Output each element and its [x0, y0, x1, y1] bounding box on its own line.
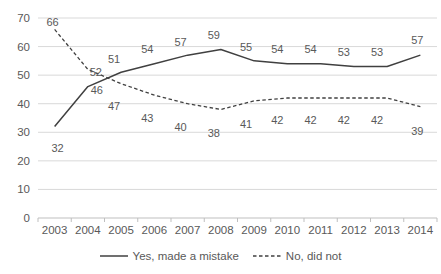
data-label: 53 [371, 46, 383, 58]
x-tick-label: 2012 [341, 224, 367, 236]
data-label: 42 [338, 114, 350, 126]
legend-line-solid-icon [100, 254, 128, 258]
y-tick-label: 70 [17, 12, 30, 24]
x-tick-label: 2009 [241, 224, 267, 236]
data-label: 57 [411, 34, 423, 46]
x-tick-label: 2006 [142, 224, 168, 236]
data-label: 51 [108, 53, 120, 65]
x-tick-label: 2005 [108, 224, 134, 236]
data-label: 42 [305, 114, 317, 126]
y-tick-label: 0 [24, 212, 30, 224]
x-tick-label: 2007 [175, 224, 201, 236]
data-label: 43 [141, 112, 153, 124]
data-label: 54 [141, 43, 153, 55]
data-label: 54 [271, 43, 283, 55]
chart-legend: Yes, made a mistake No, did not [0, 240, 441, 272]
data-label: 38 [208, 127, 220, 139]
x-tick-label: 2011 [308, 224, 333, 236]
chart-plot-area: 0102030405060702003200420052006200720082… [0, 0, 441, 240]
data-label: 47 [108, 100, 120, 112]
y-tick-label: 10 [17, 183, 30, 195]
data-label: 42 [371, 114, 383, 126]
y-tick-label: 60 [17, 41, 30, 53]
data-label: 32 [52, 142, 64, 154]
data-label: 59 [208, 29, 220, 41]
y-tick-label: 20 [17, 155, 30, 167]
data-label: 54 [305, 43, 317, 55]
x-tick-label: 2013 [374, 224, 400, 236]
x-tick-label: 2014 [408, 224, 434, 236]
data-label: 66 [47, 16, 59, 28]
x-tick-label: 2004 [75, 224, 101, 236]
data-label: 40 [175, 121, 187, 133]
data-label: 55 [240, 41, 252, 53]
data-label: 57 [175, 36, 187, 48]
data-label: 53 [338, 46, 350, 58]
x-tick-label: 2010 [275, 224, 301, 236]
x-tick-label: 2003 [42, 224, 68, 236]
data-label: 46 [91, 84, 103, 96]
line-chart: 0102030405060702003200420052006200720082… [0, 0, 441, 274]
y-tick-label: 40 [17, 98, 30, 110]
data-label: 41 [240, 118, 252, 130]
x-tick-label: 2008 [208, 224, 234, 236]
data-label: 42 [271, 114, 283, 126]
legend-item-yes: Yes, made a mistake [100, 250, 239, 262]
data-label: 52 [90, 66, 102, 78]
legend-line-dashed-icon [253, 254, 281, 258]
series-line-dashed [55, 29, 421, 109]
data-label: 39 [411, 125, 423, 137]
y-tick-label: 50 [17, 69, 30, 81]
y-tick-label: 30 [17, 126, 30, 138]
legend-label-yes: Yes, made a mistake [133, 250, 239, 262]
legend-item-no: No, did not [253, 250, 342, 262]
legend-label-no: No, did not [286, 250, 342, 262]
